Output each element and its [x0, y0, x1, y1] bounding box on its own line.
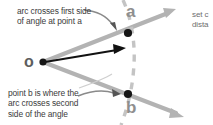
callout-point-b: point b is where the arc crosses second …: [8, 88, 79, 119]
geometry-diagram: arc crosses first side of angle at point…: [0, 0, 213, 125]
callout-right-clipped: set c dista: [192, 10, 208, 31]
point-b-marker: [124, 90, 132, 98]
point-b-label: b: [126, 99, 136, 116]
vertex-label: o: [24, 54, 34, 70]
radius-arrowhead: [113, 44, 126, 54]
point-a-marker: [124, 29, 132, 37]
lower-ray-arrowhead: [169, 108, 184, 118]
point-a-label: a: [126, 3, 135, 20]
vertex-marker: [39, 58, 46, 65]
upper-ray-arrowhead: [163, 8, 176, 18]
leader-a-arrowhead: [110, 22, 117, 31]
callout-point-a: arc crosses first side of angle at point…: [17, 6, 91, 27]
